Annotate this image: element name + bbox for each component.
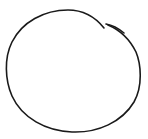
hand-drawn-circle-icon (0, 0, 148, 139)
circle-main-arc (6, 10, 140, 132)
sketch-canvas (0, 0, 148, 139)
